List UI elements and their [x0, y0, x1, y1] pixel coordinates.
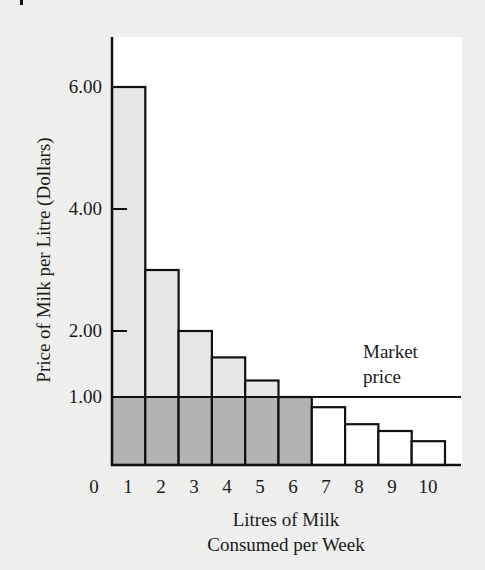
bar-5-upper — [245, 381, 278, 398]
bar-6-lower — [279, 397, 312, 465]
x-tick-label-9: 9 — [387, 476, 397, 498]
bar-2-lower — [145, 397, 178, 465]
bar-3-upper — [179, 331, 212, 397]
market-price-annotation: Market price — [363, 339, 418, 389]
x-tick-label-1: 1 — [123, 476, 133, 498]
x-tick-label-2: 2 — [156, 476, 166, 498]
x-tick-label-4: 4 — [222, 476, 232, 498]
x-axis-label: Litres of Milk Consumed per Week — [207, 507, 364, 557]
bar-9 — [378, 431, 411, 465]
bar-10 — [412, 441, 445, 465]
bar-2-upper — [145, 270, 178, 397]
y-tick-label-1: 1.00 — [42, 386, 102, 408]
bar-1-lower — [112, 397, 145, 465]
x-tick-label-0: 0 — [89, 476, 99, 498]
x-tick-label-8: 8 — [354, 476, 364, 498]
bar-4-lower — [212, 397, 245, 465]
y-tick-label-6: 6.00 — [42, 76, 102, 98]
y-tick-label-4: 4.00 — [42, 198, 102, 220]
x-tick-label-3: 3 — [189, 476, 199, 498]
x-tick-label-6: 6 — [288, 476, 298, 498]
bar-3-lower — [179, 397, 212, 465]
x-axis-label-line2: Consumed per Week — [207, 532, 364, 557]
bar-8 — [345, 424, 378, 465]
annotation-line2: price — [363, 364, 418, 389]
bar-1-upper — [112, 87, 145, 397]
bar-7 — [312, 407, 345, 465]
x-tick-label-10: 10 — [419, 476, 438, 498]
annotation-line1: Market — [363, 339, 418, 364]
bar-4-upper — [212, 357, 245, 397]
bar-5-lower — [245, 397, 278, 465]
x-axis-label-line1: Litres of Milk — [207, 507, 364, 532]
y-axis-label: Price of Milk per Litre (Dollars) — [33, 137, 55, 382]
y-tick-label-2: 2.00 — [42, 320, 102, 342]
x-tick-label-5: 5 — [255, 476, 265, 498]
x-tick-label-7: 7 — [321, 476, 331, 498]
